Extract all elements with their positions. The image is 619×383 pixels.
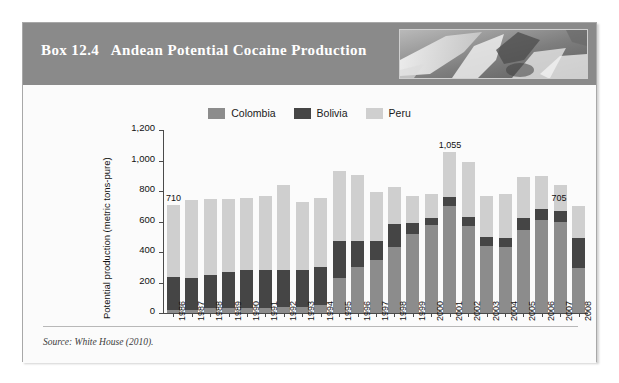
bar-column: [240, 198, 253, 313]
x-axis-tick: [265, 313, 266, 317]
x-axis-tick: [394, 313, 395, 317]
bar-segment-bolivia: [554, 211, 567, 222]
bar-segment-colombia: [554, 222, 567, 314]
footer-divider: [43, 326, 578, 327]
bar-segment-bolivia: [314, 267, 327, 306]
bar-segment-peru: [296, 202, 309, 271]
bar-segment-peru: [535, 176, 548, 210]
screenshot-root: Box 12.4 Andean Potential Cocaine Produc…: [0, 0, 619, 383]
bar-segment-bolivia: [480, 237, 493, 246]
x-axis-tick: [579, 313, 580, 317]
chart-body: Colombia Bolivia Peru Potential producti…: [23, 85, 596, 363]
bar-column: [277, 185, 290, 313]
bar-column: [259, 196, 272, 313]
x-axis-tick: [302, 313, 303, 317]
bar-segment-bolivia: [333, 241, 346, 278]
x-axis-tick: [358, 313, 359, 317]
bar-segment-peru: [370, 192, 383, 242]
y-axis-title: Potential production (metric tons-pure): [101, 157, 112, 319]
bar-segment-peru: [204, 199, 217, 275]
bar-segment-peru: [259, 196, 272, 271]
bar-column: [517, 177, 530, 313]
x-axis-tick-label: 2006: [546, 301, 556, 321]
bar-segment-bolivia: [517, 218, 530, 230]
bar-column: [167, 205, 180, 313]
bar-segment-peru: [222, 199, 235, 272]
bar-segment-peru: [443, 152, 456, 197]
bar-column: [554, 185, 567, 313]
x-axis-tick-label: 2002: [472, 301, 482, 321]
data-label-1986: 710: [166, 193, 181, 203]
bar-segment-peru: [167, 205, 180, 277]
x-axis-tick-label: 1999: [417, 301, 427, 321]
bar-column: [425, 194, 438, 313]
x-axis-tick-label: 1989: [233, 301, 243, 321]
y-axis-tick-label: 800: [139, 183, 155, 194]
x-axis-tick-label: 2007: [564, 301, 574, 321]
x-axis-tick-label: 1988: [214, 301, 224, 321]
bar-segment-bolivia: [572, 238, 585, 268]
bar-segment-peru: [499, 194, 512, 238]
x-axis-tick: [247, 313, 248, 317]
x-axis-tick: [173, 313, 174, 317]
box-container: Box 12.4 Andean Potential Cocaine Produc…: [22, 22, 597, 362]
source-note: Source: White House (2010).: [43, 337, 153, 347]
bar-column: [499, 194, 512, 313]
x-axis-tick: [210, 313, 211, 317]
x-axis-tick: [413, 313, 414, 317]
data-label-2001: 1,055: [439, 140, 462, 150]
bar-segment-bolivia: [388, 224, 401, 247]
bar-segment-peru: [314, 198, 327, 267]
bar-segment-bolivia: [425, 218, 438, 225]
bar-segment-bolivia: [406, 223, 419, 234]
x-axis-tick: [229, 313, 230, 317]
bar-segment-peru: [388, 187, 401, 224]
bar-column: [185, 200, 198, 313]
bar-group: [164, 130, 588, 313]
bar-column: [314, 198, 327, 313]
x-axis-tick-label: 2005: [527, 301, 537, 321]
bar-segment-bolivia: [499, 238, 512, 247]
bar-segment-peru: [333, 171, 346, 241]
y-axis-tick-label: 200: [139, 274, 155, 285]
bar-segment-peru: [277, 185, 290, 270]
x-axis-tick-label: 2000: [435, 301, 445, 321]
x-axis-tick-label: 2001: [454, 301, 464, 321]
bar-column: [572, 206, 585, 314]
x-axis-tick-label: 1992: [288, 301, 298, 321]
x-axis-tick: [376, 313, 377, 317]
x-axis-tick-label: 1995: [343, 301, 353, 321]
x-axis-tick: [192, 313, 193, 317]
data-label-2008: 705: [552, 193, 567, 203]
bar-segment-bolivia: [443, 197, 456, 206]
bar-column: [480, 196, 493, 313]
plot-area: Potential production (metric tons-pure) …: [23, 85, 596, 363]
bar-column: [462, 162, 475, 313]
x-axis-tick-label: 1997: [380, 301, 390, 321]
bar-column: [351, 175, 364, 313]
bar-column: [204, 199, 217, 313]
andean-photo-graphic: [400, 30, 587, 78]
bar-column: [222, 199, 235, 313]
x-axis-tick: [468, 313, 469, 317]
box-header: Box 12.4 Andean Potential Cocaine Produc…: [23, 23, 596, 85]
bar-column: [388, 187, 401, 313]
x-axis-tick-label: 1990: [251, 301, 261, 321]
bar-column: [370, 192, 383, 313]
y-axis-tick-label: 1,200: [131, 122, 155, 133]
andean-photo: [399, 29, 588, 79]
bar-column: [333, 171, 346, 313]
bar-segment-bolivia: [535, 209, 548, 220]
bar-segment-peru: [517, 177, 530, 218]
bar-column: [535, 176, 548, 313]
y-axis-tick-label: 1,000: [131, 152, 155, 163]
bar-column: [443, 152, 456, 313]
x-axis-tick-label: 1993: [306, 301, 316, 321]
bar-segment-peru: [185, 200, 198, 278]
bar-segment-bolivia: [462, 217, 475, 226]
y-axis-labels: 02004006008001,0001,200: [119, 127, 159, 313]
x-axis-tick-label: 1998: [398, 301, 408, 321]
x-axis-tick: [284, 313, 285, 317]
bar-segment-bolivia: [351, 241, 364, 267]
x-axis-tick-label: 1996: [362, 301, 372, 321]
